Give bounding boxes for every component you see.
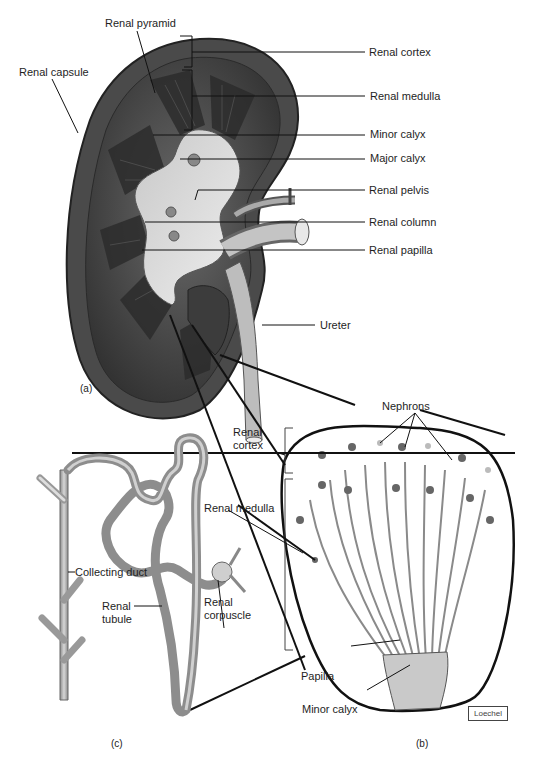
collecting-duct-shape: [60, 470, 68, 700]
label-renal-column: Renal column: [369, 216, 436, 229]
label-renal-medulla-b: Renal medulla: [204, 502, 274, 515]
label-nephrons: Nephrons: [382, 400, 430, 413]
label-renal-cortex-b-1: Renal: [233, 426, 262, 439]
panel-label-c: (c): [111, 738, 123, 749]
label-renal-corpuscle-1: Renal: [204, 596, 233, 609]
label-renal-cortex: Renal cortex: [369, 46, 431, 59]
label-major-calyx: Major calyx: [370, 152, 426, 165]
label-renal-cortex-b-2: cortex: [233, 439, 263, 452]
minor-calyx-cup: [383, 652, 448, 710]
label-minor-calyx: Minor calyx: [370, 128, 426, 141]
label-renal-capsule: Renal capsule: [19, 66, 89, 79]
kidney-section: [67, 39, 309, 443]
label-minor-calyx-b: Minor calyx: [302, 703, 358, 716]
label-renal-pelvis: Renal pelvis: [369, 184, 429, 197]
label-renal-pyramid: Renal pyramid: [105, 17, 176, 30]
label-renal-corpuscle-2: corpuscle: [204, 609, 251, 622]
label-papilla: Papilla: [301, 670, 334, 683]
label-renal-medulla: Renal medulla: [370, 90, 440, 103]
kidney-diagram: [0, 0, 534, 758]
pyramid-detail: [282, 426, 514, 711]
label-renal-papilla: Renal papilla: [369, 244, 433, 257]
signature-loechel: Loechel: [468, 706, 508, 721]
panel-label-a: (a): [80, 383, 92, 394]
label-ureter: Ureter: [320, 319, 351, 332]
label-renal-tubule-1: Renal: [102, 600, 131, 613]
panel-label-b: (b): [416, 738, 428, 749]
label-collecting-duct: Collecting duct: [75, 566, 147, 579]
label-renal-tubule-2: tubule: [102, 613, 132, 626]
renal-corpuscle-shape: [212, 562, 232, 582]
